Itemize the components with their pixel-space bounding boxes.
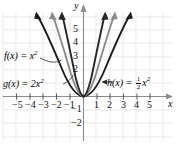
- curve-f-arrow-right: [110, 12, 117, 20]
- function-label-h-fraction: 12: [136, 76, 142, 91]
- function-label-g-text: g(x) = 2x: [3, 78, 40, 89]
- y-tick-label-4: 4: [73, 37, 78, 47]
- label-leader-lines: [40, 58, 74, 84]
- function-label-f: f(x) = x2: [4, 50, 38, 61]
- y-tick-label-5: 5: [73, 24, 78, 34]
- y-tick-label--2: −2: [71, 118, 82, 128]
- x-tick-label-4: 4: [134, 100, 139, 110]
- curve-g-arrow-left: [58, 12, 65, 21]
- y-tick-label-3: 3: [73, 51, 78, 61]
- x-tick-label-2: 2: [107, 100, 112, 110]
- y-tick-label-2: 2: [73, 64, 78, 74]
- curve-h-arrow-right: [125, 12, 132, 20]
- function-label-g: g(x) = 2x2: [3, 78, 44, 89]
- curve-g-arrow-right: [101, 12, 108, 21]
- graph-canvas: [0, 0, 178, 148]
- x-tick-label-5: 5: [147, 100, 152, 110]
- function-label-g-exponent: 2: [40, 77, 44, 85]
- function-label-f-text: f(x) = x: [4, 50, 34, 61]
- x-tick-label--5: −5: [12, 100, 23, 110]
- fraction-denominator: 2: [136, 83, 142, 91]
- x-tick-label--3: −3: [38, 100, 49, 110]
- x-tick-label-3: 3: [121, 100, 126, 110]
- parabola-comparison-figure: f(x) = x2 g(x) = 2x2 h(x) = 12x2 −5 −4 −…: [0, 0, 178, 148]
- function-label-h-prefix: h(x) =: [107, 77, 135, 88]
- function-label-h-exponent: 2: [147, 75, 151, 83]
- function-label-h: h(x) = 12x2: [107, 76, 150, 91]
- function-label-f-exponent: 2: [34, 49, 38, 57]
- y-tick-label--1: −1: [71, 104, 82, 114]
- x-tick-label--2: −2: [51, 100, 62, 110]
- x-tick-label--4: −4: [25, 100, 36, 110]
- curve-f-arrow-left: [49, 12, 56, 20]
- y-axis-arrowhead: [81, 4, 87, 12]
- x-tick-label-1: 1: [94, 100, 99, 110]
- y-axis-label: y: [74, 1, 78, 11]
- fraction-numerator: 1: [136, 76, 142, 83]
- curve-h-arrow-left: [34, 12, 42, 20]
- x-axis-label: x: [168, 99, 172, 109]
